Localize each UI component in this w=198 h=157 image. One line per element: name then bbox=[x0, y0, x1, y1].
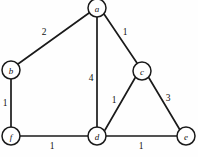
edge-weights-group: 2 1 4 1 1 3 1 1 bbox=[3, 27, 171, 151]
edge-weight-a-c: 1 bbox=[123, 27, 128, 37]
node-label-e: e bbox=[184, 132, 188, 142]
edge-c-d bbox=[105, 78, 135, 130]
node-label-d: d bbox=[95, 132, 100, 142]
edge-weight-c-d: 1 bbox=[112, 95, 117, 105]
nodes-group bbox=[2, 0, 195, 145]
edge-weight-c-e: 3 bbox=[166, 93, 171, 103]
node-label-b: b bbox=[9, 66, 14, 76]
node-label-a: a bbox=[95, 4, 100, 14]
edge-a-c bbox=[104, 14, 137, 63]
graph-canvas: a b c d e f 2 1 4 1 1 3 1 1 bbox=[0, 0, 198, 157]
edge-weight-d-e: 1 bbox=[139, 141, 144, 151]
edge-weight-f-d: 1 bbox=[50, 141, 55, 151]
edge-c-e bbox=[149, 78, 180, 130]
node-labels-group: a b c d e f bbox=[9, 4, 188, 142]
edge-weight-a-d: 4 bbox=[89, 73, 94, 83]
graph-diagram: a b c d e f 2 1 4 1 1 3 1 1 bbox=[0, 0, 198, 157]
edge-weight-a-b: 2 bbox=[42, 27, 47, 37]
edge-a-b bbox=[18, 13, 89, 64]
node-label-c: c bbox=[140, 67, 144, 77]
edge-weight-b-f: 1 bbox=[3, 98, 8, 108]
edges-group bbox=[11, 13, 180, 136]
